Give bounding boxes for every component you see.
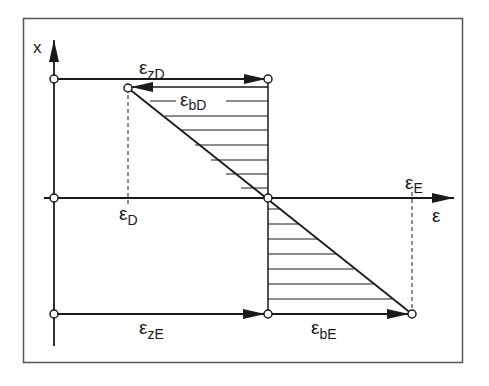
hatching-lower: [268, 209, 392, 299]
strain-diagram: x ε εzD εbD εD εE εzE εbE: [0, 0, 489, 386]
node-D: [124, 84, 132, 92]
node-bottom-left: [50, 310, 58, 318]
diagram-frame: [24, 19, 463, 363]
node-points: [50, 75, 416, 318]
label-eps-zE: εzE: [139, 317, 164, 342]
node-bottom-mid: [264, 310, 272, 318]
node-mid-left: [50, 194, 58, 202]
node-top-left: [50, 75, 58, 83]
label-eps-D: εD: [119, 203, 138, 228]
node-neutral: [264, 194, 272, 202]
hatching-upper: [150, 101, 268, 188]
node-E: [408, 310, 416, 318]
label-eps-bE: εbE: [311, 317, 337, 342]
eps-axis-label: ε: [432, 205, 441, 226]
label-eps-E: εE: [405, 172, 423, 196]
x-axis-label: x: [33, 38, 42, 57]
node-top-right: [264, 75, 272, 83]
